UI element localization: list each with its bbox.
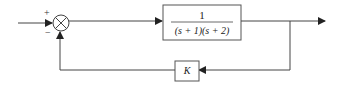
plus-sign: + bbox=[44, 8, 50, 18]
feedback-gain-label: K bbox=[175, 65, 199, 76]
transfer-function-numerator: 1 bbox=[163, 9, 241, 21]
transfer-function-denominator: (s + 1)(s + 2) bbox=[163, 25, 241, 36]
minus-sign: − bbox=[45, 28, 51, 38]
summing-junction bbox=[53, 15, 69, 31]
feedback-return-line bbox=[60, 32, 175, 70]
